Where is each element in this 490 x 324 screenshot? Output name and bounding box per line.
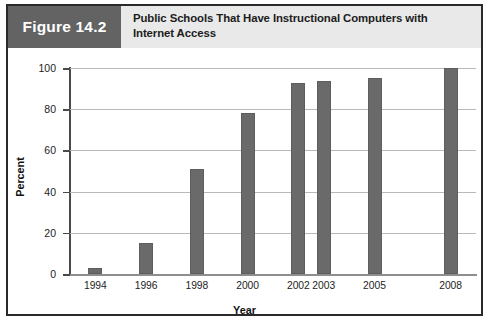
x-tick-label: 2002 [287,280,310,291]
gridline [70,150,476,151]
y-tick-mark [63,150,70,152]
y-tick-mark [63,109,70,111]
y-tick-label: 40 [28,186,56,198]
y-tick-label: 0 [28,268,56,280]
chart-body: 020406080100 Percent 1994199619982000200… [8,48,481,314]
y-tick-label: 20 [28,227,56,239]
figure-title-line-2: Internet Access [133,26,471,41]
y-tick-label: 80 [28,103,56,115]
bar [241,113,255,274]
x-tick-label: 1998 [185,280,208,291]
bar [368,78,382,274]
x-tick-label: 2003 [312,280,335,291]
x-axis-line [69,274,477,276]
y-tick-mark [63,68,70,70]
bar [291,83,305,274]
y-tick-label: 100 [28,62,56,74]
gridline [70,192,476,193]
gridline [70,233,476,234]
y-tick-mark [63,274,70,276]
y-tick-mark [63,192,70,194]
x-tick-label: 1994 [84,280,107,291]
x-tick-label: 1996 [135,280,158,291]
bar [444,68,458,274]
figure-title-line-1: Public Schools That Have Instructional C… [133,11,471,26]
gridline [70,68,476,69]
gridline [70,109,476,110]
y-tick-labels: 020406080100 [28,48,56,314]
y-axis-title: Percent [14,157,26,197]
y-tick-label: 60 [28,144,56,156]
plot-area [70,68,476,274]
figure-number-badge: Figure 14.2 [8,6,121,48]
bar [190,169,204,274]
figure-header: Figure 14.2 Public Schools That Have Ins… [8,6,481,48]
x-tick-label: 2005 [363,280,386,291]
x-axis-title: Year [8,304,481,316]
figure-title: Public Schools That Have Instructional C… [121,6,481,48]
bar [88,268,102,274]
x-tick-label: 2008 [439,280,462,291]
bar [317,81,331,274]
x-tick-label: 2000 [236,280,259,291]
y-tick-mark [63,233,70,235]
figure-frame: Figure 14.2 Public Schools That Have Ins… [6,4,483,316]
bar [139,243,153,274]
